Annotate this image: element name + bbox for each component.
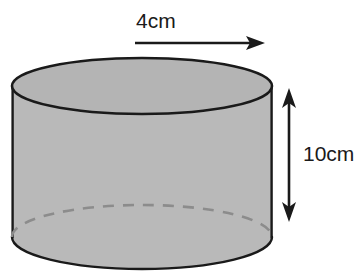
height-dimension-arrow — [282, 88, 296, 222]
cylinder-top-face — [12, 58, 272, 114]
cylinder-drawing — [0, 0, 360, 279]
cylinder-figure: 4cm 10cm — [0, 0, 360, 279]
height-dimension-label: 10cm — [303, 143, 354, 164]
radius-dimension-label: 4cm — [136, 10, 176, 31]
radius-dimension-arrow — [135, 36, 265, 50]
